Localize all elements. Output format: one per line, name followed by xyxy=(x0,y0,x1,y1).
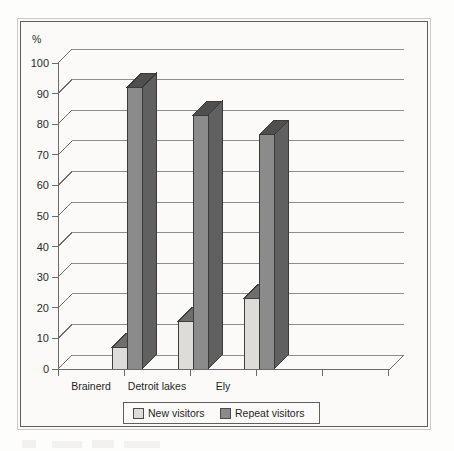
plot-area xyxy=(58,49,404,369)
bar-brainerd-repeat-visitors xyxy=(127,74,156,370)
bar-detroit-lakes-repeat-visitors xyxy=(193,101,222,369)
scan-artifact xyxy=(92,440,114,448)
x-category-labels: Brainerd Detroit lakes Ely xyxy=(71,380,231,392)
y-tick-label: 40 xyxy=(37,241,49,253)
x-category-label: Brainerd xyxy=(71,380,111,392)
scan-artifact xyxy=(22,440,36,448)
x-category-label: Ely xyxy=(216,380,231,392)
y-tick-label: 80 xyxy=(37,118,49,130)
x-category-label: Detroit lakes xyxy=(128,380,186,392)
y-tick-label: 50 xyxy=(37,210,49,222)
bar-ely-repeat-visitors xyxy=(259,121,288,369)
y-tick-label: 30 xyxy=(37,271,49,283)
bar-chart: 100 90 80 70 60 50 40 30 20 10 0 % xyxy=(20,21,428,427)
y-tick-label: 90 xyxy=(37,88,49,100)
legend-label-new-visitors: New visitors xyxy=(148,407,205,419)
y-tick-label: 0 xyxy=(43,363,49,375)
scanned-page: 100 90 80 70 60 50 40 30 20 10 0 % xyxy=(0,0,454,451)
scan-artifact xyxy=(52,441,82,448)
y-axis-unit-label: % xyxy=(32,33,41,45)
y-tick-label: 70 xyxy=(37,149,49,161)
scan-artifact xyxy=(124,441,160,448)
y-tick-label: 20 xyxy=(37,302,49,314)
y-tick-label: 60 xyxy=(37,179,49,191)
x-axis xyxy=(58,355,404,376)
legend: New visitors Repeat visitors xyxy=(123,402,319,423)
legend-label-repeat-visitors: Repeat visitors xyxy=(235,407,304,419)
y-tick-label: 10 xyxy=(37,332,49,344)
y-tick-labels: 100 90 80 70 60 50 40 30 20 10 0 xyxy=(31,57,49,375)
y-tick-label: 100 xyxy=(31,57,49,69)
legend-swatch-repeat-visitors xyxy=(220,408,230,418)
legend-swatch-new-visitors xyxy=(133,408,143,418)
